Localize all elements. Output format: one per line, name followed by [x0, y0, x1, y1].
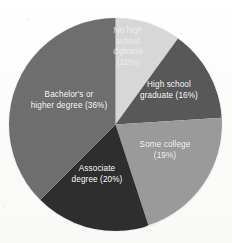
pie-chart: No high school diploma (10%) High school…: [9, 18, 222, 231]
pie-graphic: [9, 18, 222, 231]
chart-page: No high school diploma (10%) High school…: [0, 0, 232, 243]
pie-slices-svg: [9, 18, 222, 231]
page-artifact-mark: .: [3, 203, 8, 209]
